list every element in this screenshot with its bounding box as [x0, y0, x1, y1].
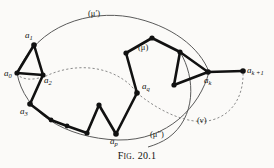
- vertex-label-ap: ap: [110, 137, 118, 148]
- vertex-dot-c7: [177, 49, 182, 54]
- vertex-dot-c8: [171, 82, 176, 87]
- curve-label-mu-prime: (μ′): [88, 9, 100, 18]
- vertex-dot-a0: [14, 70, 19, 75]
- dashed-curve-left-path: [16, 68, 137, 93]
- vertex-dot-c4: [96, 102, 101, 107]
- vertex-dot-ak: [205, 69, 211, 75]
- vertex-label-a2: a2: [44, 76, 52, 87]
- vertex-label-a0: a0: [4, 69, 12, 80]
- vertex-label-aq: aq: [142, 82, 150, 93]
- curve-mu-prime-path: [17, 15, 209, 73]
- vertex-dot-a1: [31, 42, 37, 48]
- figure-container: a0 a1 a2 a3 ap aq ak ak +1 (μ′) (μ) (μ″)…: [0, 0, 274, 168]
- vertex-dot-c5: [123, 50, 128, 55]
- vertex-dot-a3: [27, 101, 33, 107]
- figure-drawing: [0, 0, 274, 168]
- caption-rest: . 20.1: [132, 150, 156, 161]
- vertex-label-ak-plus-1: ak +1: [247, 66, 264, 77]
- vertex-dot-aq: [134, 90, 140, 96]
- vertex-label-a1: a1: [25, 31, 33, 42]
- vertex-dot-ak1: [240, 68, 246, 74]
- vertex-dot-c3: [84, 130, 89, 135]
- curve-label-mu-double-prime: (μ″): [150, 130, 164, 139]
- vertex-dot-c1: [49, 118, 54, 123]
- figure-caption: FIG. 20.1: [0, 150, 274, 161]
- vertex-label-ak: ak: [204, 76, 211, 87]
- vertex-label-a3: a3: [20, 107, 28, 118]
- thick-edge-a0-a2: [17, 73, 43, 75]
- vertex-dot-c2: [65, 124, 70, 129]
- vertex-dot-c6: [149, 35, 154, 40]
- caption-smallcaps: IG: [124, 152, 133, 161]
- curve-label-mu: (μ): [138, 43, 148, 52]
- curve-label-nu: (ν): [197, 116, 207, 125]
